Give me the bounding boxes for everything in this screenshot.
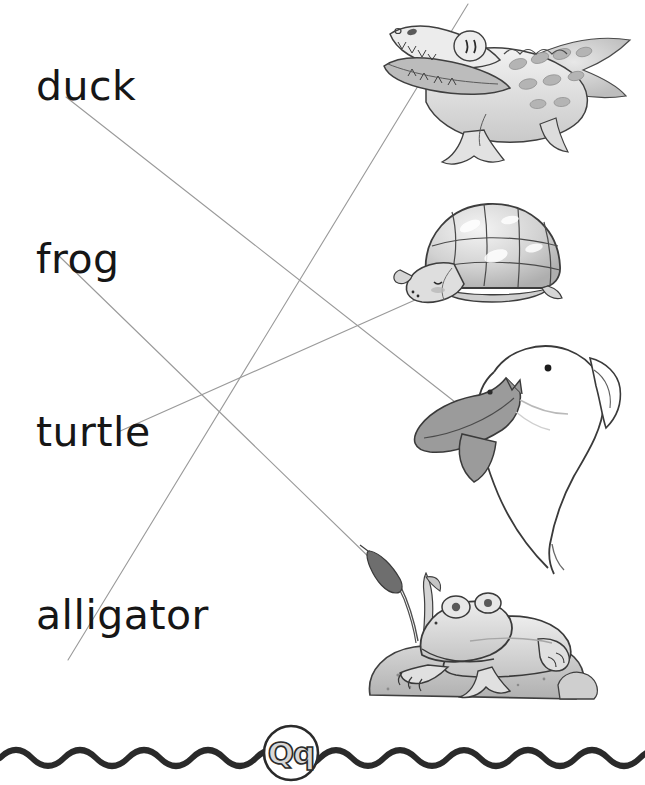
worksheet-page: duck frog turtle alligator [0, 0, 645, 785]
duck-illustration[interactable] [398, 330, 645, 575]
word-label-turtle[interactable]: turtle [36, 412, 151, 453]
word-label-frog[interactable]: frog [36, 239, 120, 280]
word-label-alligator[interactable]: alligator [36, 595, 209, 636]
word-label-duck[interactable]: duck [36, 66, 136, 107]
alligator-illustration[interactable] [368, 4, 645, 169]
footer-wave-border [0, 720, 645, 785]
letter-badge-qq: Qq [262, 724, 320, 782]
letter-badge-text: Qq [262, 724, 320, 782]
match-line-turtle-to-turtle[interactable] [118, 296, 424, 432]
frog-illustration[interactable] [352, 545, 602, 705]
turtle-illustration[interactable] [392, 190, 572, 308]
